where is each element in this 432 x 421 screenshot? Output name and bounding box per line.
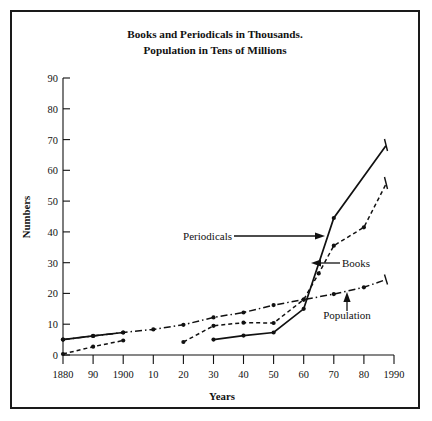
y-tick-label-10: 10 [48,319,58,330]
figure-frame: Books and Periodicals in Thousands. Popu… [10,10,420,409]
x-tick-label-1930: 30 [208,369,218,380]
x-tick-label-1980: 80 [359,369,369,380]
y-axis-title: Numbers [20,196,32,239]
x-tick-label-1970: 70 [329,369,339,380]
annotation-population: Population [323,292,371,321]
y-tick-label-50: 50 [48,196,58,207]
arrow-head-up-icon [343,292,350,302]
x-axis-ticks [63,355,394,364]
annotation-periodicals-label: Periodicals [183,230,232,242]
y-tick-label-70: 70 [48,135,58,146]
x-tick-label-1950: 50 [268,369,278,380]
y-tick-label-30: 30 [48,258,58,269]
y-axis-ticks [63,78,70,355]
arrow-head-left-icon [311,259,321,266]
y-tick-label-80: 80 [48,104,58,115]
x-tick-label-1960: 60 [299,369,309,380]
x-tick-label-1900: 1900 [113,369,134,380]
x-tick-label-1890: 90 [88,369,98,380]
x-tick-label-1940: 40 [238,369,248,380]
arrow-head-right-icon [315,232,325,239]
chart-title-line1: Books and Periodicals in Thousands. [127,28,303,40]
annotation-books-label: Books [342,257,370,269]
x-tick-label-1880: 1880 [53,369,74,380]
x-axis-title: Years [209,390,235,402]
books-line [61,177,388,356]
x-tick-label-1920: 20 [178,369,188,380]
y-tick-label-20: 20 [48,288,58,299]
x-tick-label-1910: 10 [148,369,158,380]
y-tick-label-0: 0 [53,350,58,361]
y-tick-label-90: 90 [48,73,58,84]
chart-title-line2: Population in Tens of Millions [144,44,288,56]
line-chart: Books and Periodicals in Thousands. Popu… [12,12,418,407]
y-tick-label-60: 60 [48,165,58,176]
y-tick-label-40: 40 [48,227,58,238]
x-tick-label-1990: 1990 [384,369,405,380]
annotation-periodicals: Periodicals [183,230,325,242]
